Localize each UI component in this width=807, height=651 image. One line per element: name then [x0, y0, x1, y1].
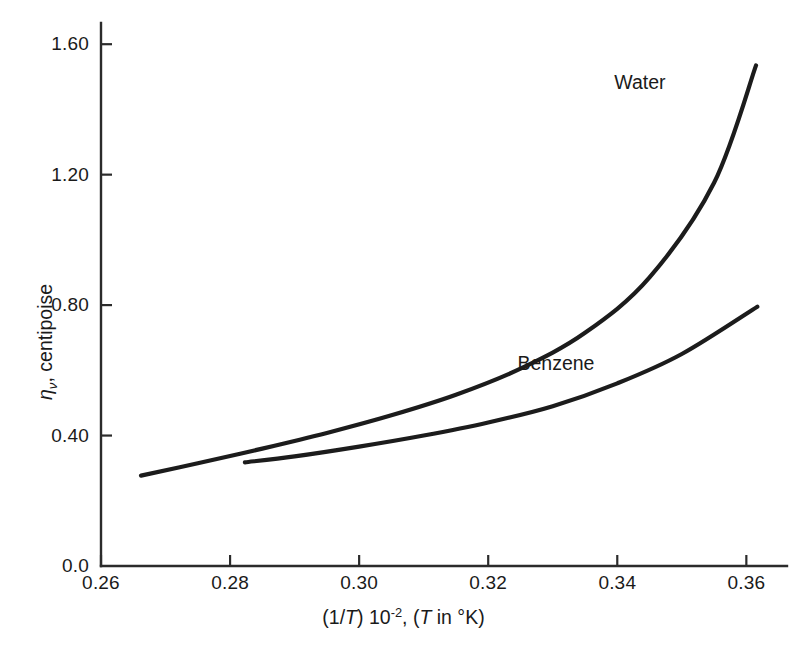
x-tick-marks: [101, 555, 746, 566]
y-axis-title: ην, centipoise: [34, 284, 57, 400]
series-group: [141, 65, 757, 475]
axes-group: [101, 23, 787, 566]
plot-canvas: [0, 0, 807, 651]
viscosity-vs-inverse-temperature-chart: 0.260.280.300.320.340.36 0.00.400.801.20…: [0, 0, 807, 651]
y-tick-label: 1.20: [0, 164, 89, 186]
x-tick-label: 0.32: [469, 572, 507, 594]
y-tick-marks: [101, 44, 112, 435]
x-tick-label: 0.36: [727, 572, 765, 594]
y-title-nu-subscript: ν: [45, 383, 60, 390]
series-label-benzene: Benzene: [517, 352, 594, 375]
y-title-rest: , centipoise: [34, 284, 56, 383]
x-tick-label: 0.28: [211, 572, 249, 594]
y-tick-label: 1.60: [0, 33, 89, 55]
y-tick-label: 0.40: [0, 425, 89, 447]
x-title-exponent: -2: [391, 605, 402, 620]
x-title-var-T: T: [345, 606, 357, 628]
x-axis-title: (1/T) 10-2, (T in °K): [0, 606, 807, 629]
series-label-water: Water: [614, 70, 665, 93]
x-tick-label: 0.30: [340, 572, 378, 594]
y-tick-label: 0.0: [0, 555, 89, 577]
y-title-eta-symbol: η: [34, 389, 56, 400]
series-line-water: [141, 65, 756, 475]
x-tick-label: 0.34: [598, 572, 636, 594]
series-line-benzene: [245, 307, 757, 463]
x-title-var-T2: T: [419, 606, 431, 628]
